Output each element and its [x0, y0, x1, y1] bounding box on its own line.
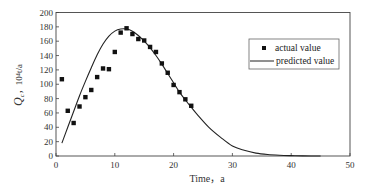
- y-tick-label: 100: [40, 79, 54, 89]
- y-tick-label: 200: [40, 8, 54, 18]
- actual-value-point: [124, 26, 128, 30]
- actual-value-point: [142, 38, 146, 42]
- actual-value-point: [148, 45, 152, 49]
- plot-area-border: [56, 13, 350, 157]
- actual-value-point: [136, 37, 140, 41]
- actual-value-point: [189, 104, 193, 108]
- actual-value-point: [118, 30, 122, 34]
- actual-value-point: [89, 88, 93, 92]
- y-tick-label: 120: [40, 65, 54, 75]
- actual-value-point: [171, 83, 175, 87]
- plot-frame: [56, 13, 350, 157]
- actual-value-point: [95, 75, 99, 79]
- actual-value-point: [183, 97, 187, 101]
- actual-value-point: [130, 32, 134, 36]
- x-tick-label: 30: [228, 160, 238, 170]
- actual-value-point: [177, 90, 181, 94]
- actual-value-point: [113, 50, 117, 54]
- x-tick-label: 10: [110, 160, 120, 170]
- actual-value-point: [101, 66, 105, 70]
- x-tick-label: 40: [287, 160, 297, 170]
- x-tick-label: 50: [346, 160, 356, 170]
- x-tick-label: 0: [54, 160, 59, 170]
- actual-value-markers: [60, 26, 194, 125]
- actual-value-point: [71, 121, 75, 125]
- y-axis-label-main: Q: [11, 97, 25, 106]
- y-tick-label: 160: [40, 36, 54, 46]
- chart: 01020304050 020406080100120140160180200 …: [0, 0, 368, 191]
- actual-value-marker-icon: [262, 46, 266, 50]
- legend-actual-label: actual value: [275, 43, 321, 53]
- y-tick-label: 0: [49, 151, 54, 161]
- actual-value-point: [160, 61, 164, 65]
- legend: actual value predicted value: [249, 39, 339, 69]
- y-tick-label: 180: [40, 22, 54, 32]
- y-tick-label: 140: [40, 51, 54, 61]
- y-tick-label: 60: [44, 108, 54, 118]
- actual-value-point: [166, 71, 170, 75]
- y-tick-label: 20: [44, 137, 54, 147]
- x-tick-label: 20: [169, 160, 179, 170]
- x-axis-label: Time，a: [189, 173, 225, 184]
- svg-text:Qc，10⁴t/a: Qc，10⁴t/a: [11, 64, 26, 106]
- actual-value-point: [107, 67, 111, 71]
- legend-predicted-label: predicted value: [276, 56, 334, 66]
- y-tick-label: 80: [44, 94, 54, 104]
- actual-value-point: [77, 104, 81, 108]
- actual-value-point: [66, 109, 70, 113]
- y-axis-label: Qc，10⁴t/a: [11, 64, 26, 106]
- actual-value-point: [60, 77, 64, 81]
- actual-value-point: [83, 95, 87, 99]
- y-axis-label-unit: ，10⁴t/a: [14, 64, 24, 94]
- actual-value-point: [154, 50, 158, 54]
- y-tick-label: 40: [44, 122, 54, 132]
